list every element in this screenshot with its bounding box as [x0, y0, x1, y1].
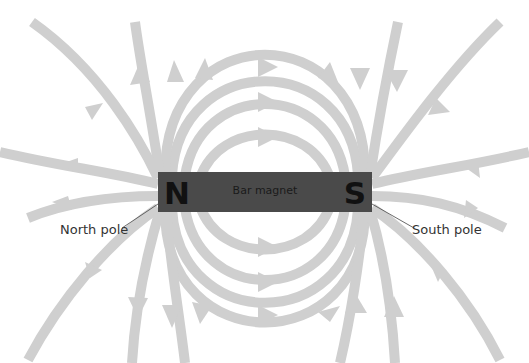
field-line-n-left-1 [0, 152, 158, 184]
south-pole-callout: South pole [412, 222, 482, 237]
south-pole-letter: S [344, 173, 366, 213]
arrow-up-left-icon [85, 103, 103, 120]
arrow-down-icon [128, 297, 148, 318]
arrow-down-icon [350, 68, 370, 90]
field-line-s-down-2 [370, 210, 395, 363]
north-pole-callout: North pole [60, 222, 128, 237]
arrow-up-icon [167, 60, 184, 82]
bar-magnet: N Bar magnet S [158, 172, 372, 212]
field-line-bottom-outer [172, 209, 358, 303]
bar-magnet-diagram: N Bar magnet S North pole South pole [0, 0, 529, 363]
field-line-n-down-2 [132, 210, 160, 363]
field-line-s-right-1 [372, 152, 529, 184]
field-line-n-left-2 [28, 196, 158, 218]
magnet-label: Bar magnet [158, 172, 372, 210]
field-line-top-outer [172, 81, 358, 175]
